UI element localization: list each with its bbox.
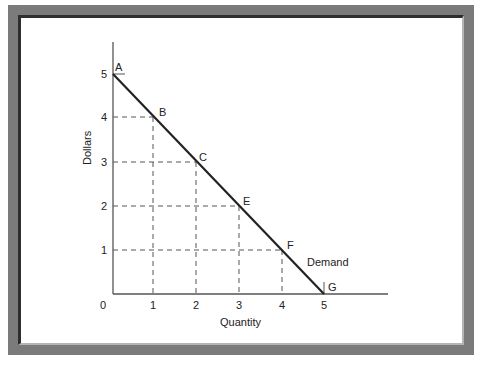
point-label-c: C — [199, 151, 207, 163]
demand-label: Demand — [307, 256, 349, 268]
point-label-a: A — [115, 61, 123, 73]
y-tick-2: 2 — [101, 200, 107, 212]
demand-chart: 5 4 3 2 1 0 1 2 3 4 5 Quantity Dollars A… — [0, 0, 482, 371]
y-tick-3: 3 — [101, 156, 107, 168]
point-label-g: G — [328, 281, 337, 293]
y-tick-5: 5 — [101, 68, 107, 80]
point-label-f: F — [287, 239, 294, 251]
y-tick-1: 1 — [101, 244, 107, 256]
x-tick-1: 1 — [150, 299, 156, 311]
y-axis-title: Dollars — [81, 130, 93, 165]
origin-label: 0 — [100, 299, 106, 311]
point-label-e: E — [243, 195, 250, 207]
x-tick-4: 4 — [279, 299, 285, 311]
point-label-b: B — [159, 106, 166, 118]
x-tick-5: 5 — [321, 299, 327, 311]
dashed-guides — [113, 117, 282, 294]
x-axis-title: Quantity — [220, 316, 261, 328]
x-tick-3: 3 — [236, 299, 242, 311]
demand-curve — [113, 74, 324, 294]
y-tick-4: 4 — [101, 111, 107, 123]
x-tick-2: 2 — [193, 299, 199, 311]
